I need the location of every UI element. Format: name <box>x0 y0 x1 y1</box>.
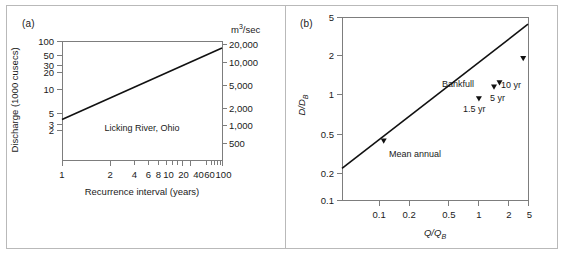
annotation-mean-annual: Mean annual <box>389 149 441 159</box>
tick-label: 5 <box>329 12 334 23</box>
marker-mean-annual <box>381 139 387 144</box>
panel-a-plot: 100 50 30 20 10 5 3 2 Discharge (1000 cu… <box>0 0 285 256</box>
tick-label: 60 <box>204 169 215 180</box>
y-axis-title-subscript: B <box>302 94 309 99</box>
tick-label: 20 <box>43 67 54 78</box>
tick-label: 1 <box>476 209 481 220</box>
tick-label: 100 <box>216 169 232 180</box>
panel-b-axes <box>342 17 528 200</box>
panel-a-right-ticks <box>222 45 227 144</box>
panel-a-data-line <box>62 48 222 120</box>
tick-label: 2 <box>108 169 113 180</box>
panel-a-site-annotation: Licking River, Ohio <box>104 123 179 133</box>
tick-label: 0.2 <box>321 168 334 179</box>
tick-label: 1 <box>329 89 334 100</box>
annotation-bankfull: Bankfull <box>442 79 474 89</box>
panel-b-y-tick-labels: 5 2 1 0.5 0.2 0.1 <box>321 12 334 206</box>
panel-a-right-tick-labels: 20,000 10,000 5,000 2,000 1,000 500 <box>229 39 258 149</box>
panel-b-x-ticks <box>379 200 528 206</box>
right-axis-title-rest: /sec <box>243 24 261 35</box>
tick-label: 1 <box>59 169 64 180</box>
tick-label: 2 <box>49 125 54 136</box>
panel-a-left-tick-labels: 100 50 30 20 10 5 3 2 <box>38 36 54 137</box>
tick-label: 6 <box>146 169 151 180</box>
tick-label: 5,000 <box>229 80 253 91</box>
tick-label: 0.5 <box>321 129 334 140</box>
figure-container: (a) 100 50 30 20 10 5 3 2 <box>0 0 564 256</box>
panel-a-x-tick-labels: 1 2 4 6 8 10 20 40 60 100 <box>59 169 231 180</box>
panel-b-x-axis-title: Q/QB <box>424 227 446 240</box>
tick-label: 100 <box>38 36 54 47</box>
tick-label: 0.1 <box>373 209 386 220</box>
tick-label: 10 <box>163 169 174 180</box>
tick-label: 2 <box>329 50 334 61</box>
marker-bankfull-1-5-yr <box>476 96 482 101</box>
panel-a-x-axis-title: Recurrence interval (years) <box>85 186 200 197</box>
marker-upper <box>520 56 526 61</box>
tick-label: 0.2 <box>403 209 416 220</box>
tick-label: 10,000 <box>229 57 258 68</box>
tick-label: 1,000 <box>229 120 253 131</box>
panel-a-x-ticks <box>62 160 222 166</box>
tick-label: 10 <box>43 84 54 95</box>
tick-label: 4 <box>132 169 137 180</box>
x-axis-title-subscript: B <box>441 233 446 240</box>
marker-5-yr <box>491 85 497 90</box>
panel-b-y-axis-title: D/DB <box>296 94 309 115</box>
annotation-10-yr: 10 yr <box>501 80 521 90</box>
right-axis-title-base: m <box>231 24 239 35</box>
panel-b-plot: 5 2 1 0.5 0.2 0.1 D/DB 0.1 0.2 0.5 1 2 5 <box>285 0 564 256</box>
tick-label: 8 <box>156 169 161 180</box>
tick-label: 20 <box>178 169 189 180</box>
tick-label: 5 <box>527 209 532 220</box>
tick-label: 40 <box>193 169 204 180</box>
annotation-5-yr: 5 yr <box>490 93 505 103</box>
panel-b-y-ticks <box>337 17 342 200</box>
tick-label: 2 <box>506 209 511 220</box>
tick-label: 20,000 <box>229 39 258 50</box>
tick-label: 0.1 <box>321 195 334 206</box>
tick-label: 2,000 <box>229 103 253 114</box>
annotation-1-5-yr: 1.5 yr <box>463 104 486 114</box>
tick-label: 500 <box>229 138 245 149</box>
panel-a-right-axis-title: m3/sec <box>231 23 261 35</box>
panel-b-x-tick-labels: 0.1 0.2 0.5 1 2 5 <box>373 209 533 220</box>
panel-a-left-ticks <box>57 41 62 131</box>
tick-label: 0.5 <box>442 209 455 220</box>
panel-a-y-axis-title: Discharge (1000 cusecs) <box>9 47 20 152</box>
